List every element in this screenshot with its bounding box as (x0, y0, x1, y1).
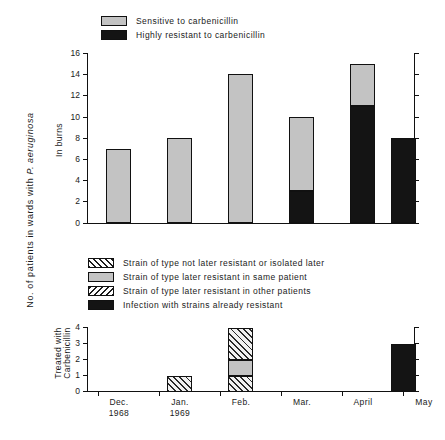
bar-segment-sensitive (289, 117, 314, 191)
y-tick-label: 3 (58, 339, 80, 348)
x-tick-label-feb: Feb. (211, 397, 271, 408)
y-tick-label: 0 (58, 387, 80, 396)
bar-may (391, 138, 416, 223)
legend-bottom-chart: Strain of type not later resistant or is… (88, 256, 325, 312)
x-tick-label-line1: Mar. (272, 397, 332, 408)
x-axis-line (87, 223, 415, 224)
y-axis-line (87, 53, 88, 223)
legend-label: Strain of type later resistant in other … (123, 286, 311, 296)
legend-item: Strain of type later resistant in same p… (88, 270, 325, 284)
y-tick-label: 4 (58, 176, 80, 185)
bar-segment-not-later-resistant (228, 376, 253, 392)
x-tick-label-april: April (333, 397, 393, 408)
legend-label: Strain of type not later resistant or is… (123, 258, 325, 268)
legend-item: Strain of type later resistant in other … (88, 284, 325, 298)
legend-swatch-later-resistant-same-patient-icon (88, 272, 114, 282)
bar-segment-already-resistant (391, 344, 416, 392)
x-tick-label-line1: Dec. (89, 397, 149, 408)
bar-segment-sensitive (167, 138, 192, 223)
bar-segment-highly-resistant (289, 191, 314, 223)
bar-jan-1969 (167, 138, 192, 223)
legend-swatch-later-resistant-other-patients-icon (88, 286, 114, 296)
y-tick-label: 12 (58, 91, 80, 100)
y-tick-label: 16 (58, 49, 80, 58)
y-tick-label: 10 (58, 113, 80, 122)
y-tick-label: 2 (58, 355, 80, 364)
y-tick-label: 8 (58, 134, 80, 143)
x-tick-label-dec: Dec. 1968 (89, 397, 149, 419)
legend-swatch-not-later-resistant-icon (88, 258, 114, 268)
bar-segment-highly-resistant (350, 106, 375, 223)
y-tick-label: 14 (58, 70, 80, 79)
bar-segment-sensitive (228, 74, 253, 223)
x-tick-label-line1: May (394, 397, 445, 408)
x-tick-label-jan: Jan. 1969 (150, 397, 210, 419)
legend-top-chart: Sensitive to carbenicillin Highly resist… (101, 14, 265, 42)
legend-swatch-highly-resistant-icon (101, 30, 127, 40)
legend-swatch-sensitive-icon (101, 16, 127, 26)
bar-may-treated (391, 344, 416, 392)
x-tick-label-line1: April (333, 397, 393, 408)
bar-segment-highly-resistant (391, 138, 416, 223)
legend-swatch-already-resistant-icon (88, 300, 114, 310)
chart-treated-with-carbenicillin: Treated with Carbenicillin 0 1 2 3 4 (0, 318, 445, 438)
bar-mar (289, 117, 314, 223)
legend-label: Infection with strains already resistant (123, 300, 283, 310)
x-tick-label-line1: Jan. (150, 397, 210, 408)
y-tick-label: 6 (58, 155, 80, 164)
bar-feb (228, 74, 253, 223)
bar-feb-treated (228, 328, 253, 392)
bar-april (350, 64, 375, 223)
legend-label: Strain of type later resistant in same p… (123, 272, 307, 282)
x-tick-label-mar: Mar. (272, 397, 332, 408)
bar-segment-later-resistant-same-patient (228, 360, 253, 376)
x-tick-label-line1: Feb. (211, 397, 271, 408)
bar-segment-not-later-resistant-upper (228, 328, 253, 360)
x-tick-label-line2: 1969 (150, 408, 210, 419)
y-axis-line (87, 327, 88, 391)
legend-label: Highly resistant to carbenicillin (136, 30, 265, 40)
x-tick-label-may: May (394, 397, 445, 408)
bar-jan-1969-treated (167, 376, 192, 392)
y-tick-label: 4 (58, 323, 80, 332)
figure-root: No. of patients in wards with P. aerugin… (0, 0, 445, 440)
bar-segment-not-later-resistant (167, 376, 192, 392)
bar-segment-sensitive (106, 149, 131, 223)
y-tick-label: 0 (58, 219, 80, 228)
legend-item: Strain of type not later resistant or is… (88, 256, 325, 270)
x-tick-label-line2: 1968 (89, 408, 149, 419)
legend-item: Sensitive to carbenicillin (101, 14, 265, 28)
bar-segment-sensitive (350, 64, 375, 106)
chart-in-burns: In burns 0 2 4 6 8 10 12 14 16 (0, 40, 445, 235)
legend-item: Infection with strains already resistant (88, 298, 325, 312)
y-tick-label: 2 (58, 197, 80, 206)
legend-label: Sensitive to carbenicillin (136, 16, 238, 26)
y-tick-label: 1 (58, 371, 80, 380)
bar-dec-1968 (106, 149, 131, 223)
